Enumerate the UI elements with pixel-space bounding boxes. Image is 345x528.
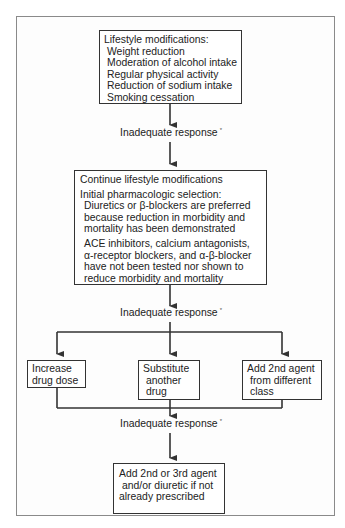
lifestyle-item: Reduction of sodium intake xyxy=(104,80,237,92)
footnote-mark: * xyxy=(220,418,222,424)
box-text: Add 2nd agent xyxy=(247,363,317,375)
untested-text: reduce morbidity and mortality xyxy=(80,273,261,285)
untested-text: ACE inhibitors, calcium antagonists, xyxy=(80,238,261,250)
untested-text: have not been tested nor shown to xyxy=(80,261,261,273)
add-second-agent-box: Add 2nd agent from different class xyxy=(242,360,322,400)
inadequate-response-label-1: Inadequate response* xyxy=(115,127,227,138)
box-text: Substitute xyxy=(143,363,195,375)
box-text: already prescribed xyxy=(119,491,219,503)
final-add-agent-box: Add 2nd or 3rd agent and/or diuretic if … xyxy=(113,463,225,514)
continue-lifestyle-text: Continue lifestyle modifications xyxy=(80,174,261,186)
box-text: from different xyxy=(247,375,317,387)
box-text: drug dose xyxy=(32,375,81,387)
untested-text: α-receptor blockers, and α-β-blocker xyxy=(80,250,261,262)
initial-selection-text: Initial pharmacologic selection: xyxy=(80,189,261,201)
preferred-text: Diuretics or β-blockers are preferred xyxy=(80,200,261,212)
box-text: another xyxy=(143,375,195,387)
lifestyle-item: Weight reduction xyxy=(104,46,237,58)
lifestyle-item: Regular physical activity xyxy=(104,69,237,81)
inadequate-response-label-2: Inadequate response* xyxy=(115,307,227,318)
preferred-text: because reduction in morbidity and xyxy=(80,212,261,224)
box-text: Increase xyxy=(32,363,81,375)
inadequate-response-label-3: Inadequate response* xyxy=(115,418,227,429)
increase-drug-dose-box: Increase drug dose xyxy=(27,360,86,388)
pharmacologic-selection-box: Continue lifestyle modifications Initial… xyxy=(74,170,267,285)
footnote-mark: * xyxy=(220,307,222,313)
lifestyle-item: Moderation of alcohol intake xyxy=(104,57,237,69)
box-text: class xyxy=(247,386,317,398)
box-text: Add 2nd or 3rd agent xyxy=(119,468,219,480)
footnote-mark: * xyxy=(220,127,222,133)
substitute-drug-box: Substitute another drug xyxy=(138,360,200,400)
lifestyle-title: Lifestyle modifications: xyxy=(104,34,237,46)
lifestyle-item: Smoking cessation xyxy=(104,92,237,104)
lifestyle-modifications-box: Lifestyle modifications: Weight reductio… xyxy=(99,30,242,104)
preferred-text: mortality has been demonstrated xyxy=(80,223,261,235)
box-text: drug xyxy=(143,386,195,398)
box-text: and/or diuretic if not xyxy=(119,480,219,492)
